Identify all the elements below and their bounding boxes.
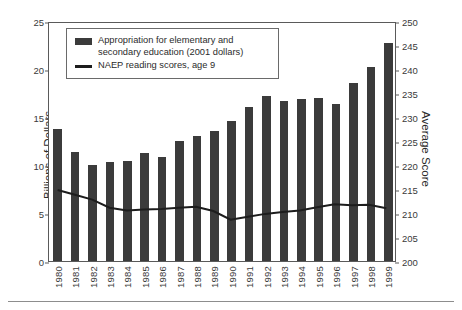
y-axis-right-title: Average Score	[420, 111, 432, 187]
y-axis-left-tickmark-0	[45, 263, 49, 264]
x-axis-tick-1992: 1992	[262, 266, 273, 288]
chart-figure: Billions of Dollars Average Score 051015…	[0, 0, 462, 310]
bar-1989	[210, 131, 219, 261]
x-axis-tick-1981: 1981	[70, 266, 81, 288]
y-axis-left-tickmark-10	[45, 167, 49, 168]
bar-1980	[53, 129, 62, 261]
bar-1999	[384, 43, 393, 261]
x-axis-tick-1998: 1998	[366, 266, 377, 288]
bar-1994	[297, 99, 306, 261]
y-axis-right-tick-200: 200	[402, 258, 418, 268]
x-axis-tick-1987: 1987	[175, 266, 186, 288]
y-axis-left-tickmark-15	[45, 119, 49, 120]
x-axis-tick-1985: 1985	[140, 266, 151, 288]
y-axis-right-tick-215: 215	[402, 186, 418, 196]
y-axis-right-tickmark-240	[395, 71, 399, 72]
legend-item-naep: NAEP reading scores, age 9	[73, 60, 271, 72]
bar-1997	[349, 83, 358, 261]
y-axis-right-tick-210: 210	[402, 210, 418, 220]
bar-1995	[314, 98, 323, 261]
x-axis-tick-1982: 1982	[88, 266, 99, 288]
footer-rule	[8, 301, 454, 302]
bar-1988	[193, 136, 202, 261]
bar-1987	[175, 141, 184, 261]
y-axis-left-tick-10: 10	[33, 162, 44, 172]
y-axis-right-tick-235: 235	[402, 90, 418, 100]
x-axis-tick-1989: 1989	[209, 266, 220, 288]
y-axis-left-tickmark-25	[45, 23, 49, 24]
y-axis-left-tickmark-20	[45, 71, 49, 72]
y-axis-right-tick-240: 240	[402, 66, 418, 76]
x-axis-tick-1988: 1988	[192, 266, 203, 288]
x-axis-tick-1984: 1984	[122, 266, 133, 288]
y-axis-left-tickmark-5	[45, 215, 49, 216]
x-axis-tick-1999: 1999	[383, 266, 394, 288]
bar-1996	[332, 104, 341, 261]
y-axis-right-tick-250: 250	[402, 18, 418, 28]
y-axis-right-tickmark-230	[395, 119, 399, 120]
x-axis-tick-1991: 1991	[244, 266, 255, 288]
bar-1990	[227, 121, 236, 261]
x-axis-tick-1983: 1983	[105, 266, 116, 288]
y-axis-right-tick-245: 245	[402, 42, 418, 52]
y-axis-right-tickmark-225	[395, 143, 399, 144]
y-axis-right-tickmark-215	[395, 191, 399, 192]
y-axis-left-tick-20: 20	[33, 66, 44, 76]
y-axis-right-tick-205: 205	[402, 234, 418, 244]
bar-1981	[71, 152, 80, 261]
y-axis-right-tick-220: 220	[402, 162, 418, 172]
x-axis-tick-1993: 1993	[279, 266, 290, 288]
y-axis-right-tickmark-245	[395, 47, 399, 48]
bar-1993	[280, 101, 289, 261]
bar-1998	[367, 67, 376, 261]
y-axis-right-tickmark-210	[395, 215, 399, 216]
bar-1983	[106, 162, 115, 261]
bar-1982	[88, 165, 97, 261]
y-axis-left-tick-25: 25	[33, 18, 44, 28]
y-axis-right-tickmark-235	[395, 95, 399, 96]
bar-swatch-icon	[75, 38, 92, 45]
y-axis-right-tick-225: 225	[402, 138, 418, 148]
y-axis-left-tick-15: 15	[33, 114, 44, 124]
bar-1985	[140, 153, 149, 261]
bar-1986	[158, 157, 167, 261]
bar-1984	[123, 161, 132, 261]
y-axis-right-tickmark-205	[395, 239, 399, 240]
y-axis-left-tick-5: 5	[39, 210, 44, 220]
legend-item-appropriation: Appropriation for elementary and seconda…	[73, 35, 271, 58]
bar-1992	[262, 96, 271, 261]
x-axis-tick-1990: 1990	[227, 266, 238, 288]
y-axis-right-tick-230: 230	[402, 114, 418, 124]
y-axis-left-tick-0: 0	[39, 258, 44, 268]
x-axis-tick-1995: 1995	[314, 266, 325, 288]
line-swatch-icon	[75, 65, 92, 67]
x-axis-tick-1986: 1986	[157, 266, 168, 288]
y-axis-right-tickmark-200	[395, 263, 399, 264]
legend-label-appropriation: Appropriation for elementary and seconda…	[98, 35, 271, 58]
bar-1991	[245, 107, 254, 261]
y-axis-right-tickmark-250	[395, 23, 399, 24]
legend-label-naep: NAEP reading scores, age 9	[98, 60, 215, 72]
chart-legend: Appropriation for elementary and seconda…	[66, 28, 279, 79]
x-axis-tick-1994: 1994	[296, 266, 307, 288]
x-axis-tick-1980: 1980	[53, 266, 64, 288]
y-axis-right-tickmark-220	[395, 167, 399, 168]
x-axis-tick-1997: 1997	[349, 266, 360, 288]
x-axis-tick-1996: 1996	[331, 266, 342, 288]
